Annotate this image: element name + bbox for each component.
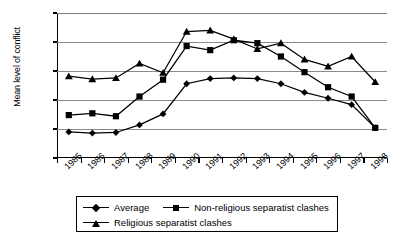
data-point <box>89 110 95 116</box>
legend-label-average: Average <box>114 203 149 213</box>
series-line <box>69 30 375 82</box>
legend-item-non-religious: Non-religious separatist clashes <box>163 203 329 213</box>
plot-area: 43.532.521.5 198519861987198819891990199… <box>57 13 387 158</box>
data-point <box>207 47 213 53</box>
legend-label-religious: Religious separatist clashes <box>114 218 232 228</box>
series-diamond <box>65 75 378 137</box>
data-point <box>230 75 237 82</box>
legend-item-religious: Religious separatist clashes <box>83 218 232 228</box>
legend-row-2: Religious separatist clashes <box>83 215 331 230</box>
y-axis-title: Mean level of conflict <box>12 2 22 132</box>
data-point <box>160 77 166 83</box>
data-point <box>301 89 308 96</box>
diamond-marker-icon <box>83 203 109 213</box>
legend-item-average: Average <box>83 203 149 213</box>
series-plot <box>57 13 387 158</box>
data-point <box>89 130 96 137</box>
data-point <box>65 129 72 136</box>
chart-figure: Mean level of conflict 43.532.521.5 1985… <box>0 0 407 239</box>
data-point <box>184 43 190 49</box>
data-point <box>136 60 144 67</box>
legend-label-non-religious: Non-religious separatist clashes <box>194 203 329 213</box>
data-point <box>277 39 285 46</box>
data-point <box>254 75 261 82</box>
data-point <box>66 112 72 118</box>
series-square <box>66 37 379 131</box>
data-point <box>113 113 119 119</box>
x-tick-mark <box>57 158 58 163</box>
data-point <box>301 69 307 75</box>
data-point <box>278 80 285 87</box>
data-point <box>65 72 73 79</box>
square-marker-icon <box>163 203 189 213</box>
data-point <box>159 69 167 76</box>
data-point <box>349 93 355 99</box>
data-point <box>301 56 309 63</box>
data-point <box>207 75 214 82</box>
legend-row-1: Average Non-religious separatist clashes <box>83 200 331 215</box>
data-point <box>325 84 331 90</box>
data-point <box>136 122 143 129</box>
data-point <box>113 129 120 136</box>
series-triangle <box>65 27 379 86</box>
data-point <box>372 125 378 131</box>
triangle-marker-icon <box>83 218 109 228</box>
chart-legend: Average Non-religious separatist clashes… <box>76 196 338 232</box>
data-point <box>348 53 356 60</box>
data-point <box>278 53 284 59</box>
data-point <box>136 93 142 99</box>
data-point <box>325 95 332 102</box>
